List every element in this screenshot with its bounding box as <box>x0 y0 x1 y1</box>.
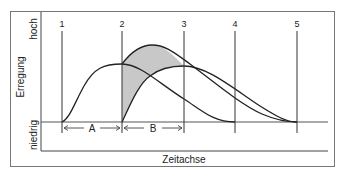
outer-frame <box>11 12 335 167</box>
y-axis-low-label: niedrig <box>28 120 39 150</box>
interval-b-label: B <box>150 123 157 134</box>
y-axis-high-label: hoch <box>28 18 39 40</box>
marker-label-3: 3 <box>181 19 186 29</box>
marker-label-5: 5 <box>294 19 299 29</box>
x-axis-title: Zeitachse <box>162 154 206 165</box>
arousal-diagram: 1 2 3 4 5 A B hoch Erregung niedrig Zeit… <box>0 0 345 179</box>
marker-label-1: 1 <box>59 19 64 29</box>
interval-a-label: A <box>89 123 96 134</box>
marker-label-2: 2 <box>119 19 124 29</box>
shaded-difference-area <box>122 45 184 122</box>
y-axis-title: Erregung <box>15 56 26 97</box>
marker-label-4: 4 <box>232 19 237 29</box>
